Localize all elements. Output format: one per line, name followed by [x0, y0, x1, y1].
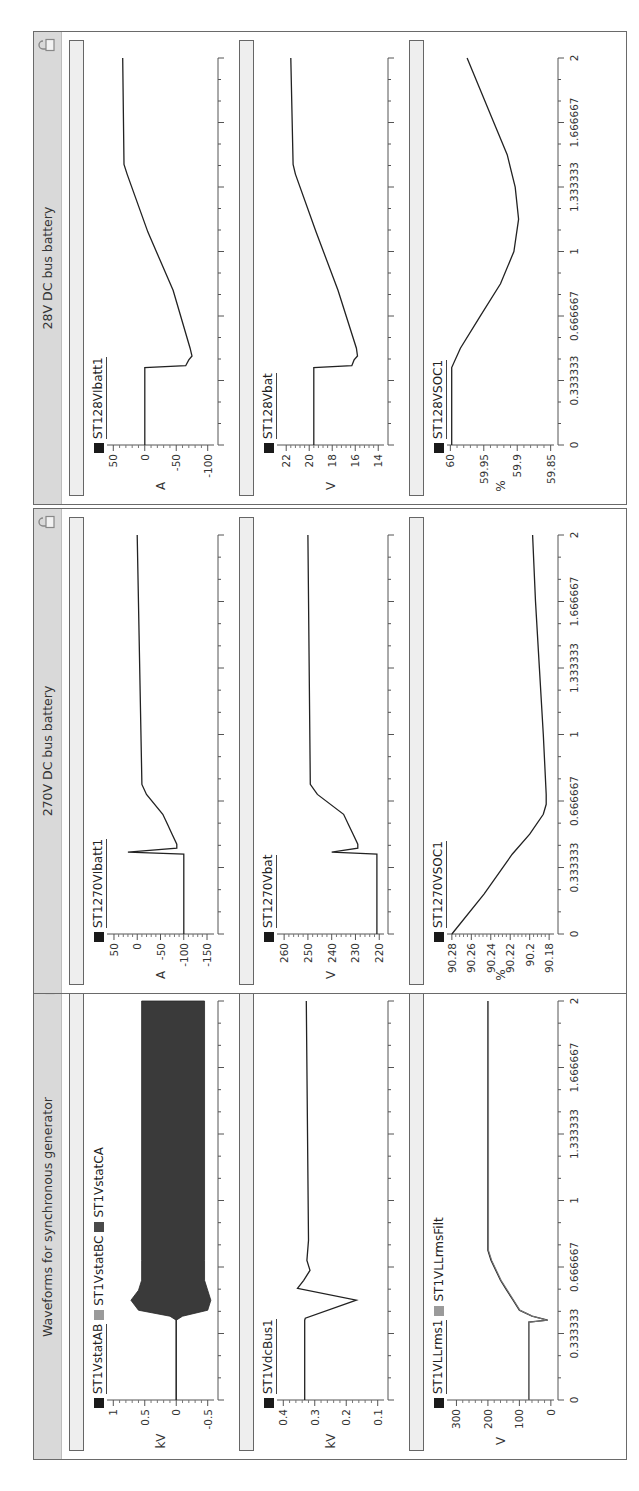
plot-area: 3002001000V00.3333330.66666711.3333331.6…: [409, 979, 581, 1455]
x-tick-label: 0.333333: [568, 842, 580, 892]
x-tick-label: 0.666667: [568, 776, 580, 826]
chart-st1270vsoc1: ST1270VSOC190.2890.2690.2490.2290.290.18…: [409, 513, 581, 989]
plot-area: 6059.9559.959.85%00.3333330.66666711.333…: [409, 36, 581, 500]
y-tick-label: 250: [302, 943, 314, 963]
y-tick-label: 16: [349, 454, 361, 468]
lock-icon[interactable]: [38, 38, 56, 52]
y-tick-label: 200: [482, 1409, 494, 1429]
y-tick-label: 0.2: [340, 1409, 352, 1426]
series-line: [488, 1001, 548, 1400]
y-axis-unit: V: [324, 481, 338, 490]
y-axis-unit: V: [494, 1436, 508, 1445]
series-line: [298, 1001, 357, 1400]
dashboard: Waveforms for synchronous generatorST1Vs…: [0, 0, 639, 1491]
y-tick-label: 59.85: [545, 454, 557, 484]
y-axis-unit: V: [324, 970, 338, 979]
y-tick-label: 100: [513, 1409, 525, 1429]
y-tick-label: 220: [373, 943, 385, 963]
y-tick-label: 0: [545, 1409, 557, 1416]
y-tick-label: 0: [131, 943, 143, 950]
y-tick-label: 240: [326, 943, 338, 963]
y-tick-label: 1: [107, 1409, 119, 1416]
x-tick-label: 1.666667: [568, 97, 580, 147]
y-tick-label: 14: [372, 454, 384, 468]
y-axis-unit: %: [494, 480, 508, 491]
y-axis-unit: %: [494, 969, 508, 980]
lock-icon[interactable]: [38, 515, 56, 529]
panel-title-text: 28V DC bus battery: [40, 207, 55, 330]
chart-st1vstatab: ST1VstatABST1VstatBCST1VstatCA10.50-0.5k…: [69, 979, 241, 1455]
y-axis-unit: A: [154, 481, 168, 490]
x-tick-label: 0: [568, 931, 580, 938]
x-tick-label: 0: [568, 1397, 580, 1404]
y-tick-label: -150: [201, 943, 213, 967]
series-line: [291, 58, 358, 445]
y-tick-label: 90.18: [543, 943, 555, 973]
plot-area: 500-50-100A: [69, 36, 241, 500]
panel-dc28: 28V DC bus batteryST128VIbatt1500-50-100…: [33, 31, 627, 505]
chart-st1vdcbus1: ST1VdcBus10.40.30.20.1kV: [239, 979, 411, 1455]
y-tick-label: 18: [326, 454, 338, 467]
series-line: [452, 58, 519, 445]
y-tick-label: 90.28: [446, 943, 458, 973]
y-tick-label: 90.26: [465, 943, 477, 973]
panel-title-text: Waveforms for synchronous generator: [40, 1097, 55, 1337]
y-tick-label: -100: [178, 943, 190, 967]
y-tick-label: 59.9: [511, 454, 523, 477]
series-line: [123, 58, 192, 445]
x-tick-label: 1: [568, 248, 580, 255]
x-tick-label: 0.666667: [568, 291, 580, 341]
chart-st1vllrms1: ST1VLLrms1ST1VLLrmsFilt3002001000V00.333…: [409, 979, 581, 1455]
y-tick-label: 0.5: [139, 1409, 151, 1426]
panel-title: 28V DC bus battery: [34, 32, 62, 504]
x-tick-label: 1.333333: [568, 162, 580, 212]
plot-area: 260250240230220V: [239, 513, 411, 989]
x-tick-label: 0.333333: [568, 1308, 580, 1358]
plot-area: 500-50-100-150A: [69, 513, 241, 989]
panel-dc270: 270V DC bus batteryST1270VIbatt1500-50-1…: [33, 508, 627, 994]
x-tick-label: 0.333333: [568, 355, 580, 405]
x-tick-label: 1.666667: [568, 1042, 580, 1092]
y-tick-label: 20: [303, 454, 315, 467]
chart-st1270vibatt1: ST1270VIbatt1500-50-100-150A: [69, 513, 241, 989]
y-tick-label: -50: [155, 943, 167, 960]
x-tick-label: 1.666667: [568, 576, 580, 626]
chart-st128vibatt1: ST128VIbatt1500-50-100A: [69, 36, 241, 500]
x-tick-label: 2: [568, 998, 580, 1005]
chart-st128vbat: ST128Vbat2220181614V: [239, 36, 411, 500]
chart-st1270vbat: ST1270Vbat260250240230220V: [239, 513, 411, 989]
panel-title: 270V DC bus battery: [34, 509, 62, 993]
y-tick-label: -50: [170, 454, 182, 471]
x-tick-label: 1: [568, 731, 580, 738]
y-tick-label: 90.2: [524, 943, 536, 966]
y-tick-label: 300: [450, 1409, 462, 1429]
y-tick-label: 230: [349, 943, 361, 963]
y-tick-label: 50: [108, 943, 120, 956]
series-line: [452, 535, 546, 934]
panel-title-text: 270V DC bus battery: [40, 686, 55, 817]
x-tick-label: 0.666667: [568, 1242, 580, 1292]
y-tick-label: -100: [202, 454, 214, 478]
x-tick-label: 2: [568, 55, 580, 62]
plot-area: 10.50-0.5kV: [69, 979, 241, 1455]
series-ST1VstatAB/BC/CA envelope: [131, 1001, 211, 1400]
series-line: [489, 1001, 548, 1400]
series-line: [128, 535, 184, 934]
x-tick-label: 2: [568, 532, 580, 539]
y-tick-label: 0.3: [309, 1409, 321, 1426]
y-tick-label: 0.4: [277, 1409, 289, 1426]
y-tick-label: 22: [280, 454, 292, 467]
y-tick-label: 0: [170, 1409, 182, 1416]
y-tick-label: 60: [444, 454, 456, 467]
y-tick-label: 260: [278, 943, 290, 963]
plot-area: 2220181614V: [239, 36, 411, 500]
plot-area: 0.40.30.20.1kV: [239, 979, 411, 1455]
x-tick-label: 1.333333: [568, 1109, 580, 1159]
chart-st128vsoc1: ST128VSOC16059.9559.959.85%00.3333330.66…: [409, 36, 581, 500]
plot-area: 90.2890.2690.2490.2290.290.18%00.3333330…: [409, 513, 581, 989]
y-tick-label: 0: [139, 454, 151, 461]
panel-title: Waveforms for synchronous generator: [34, 975, 62, 1459]
y-tick-label: 50: [107, 454, 119, 467]
series-line: [308, 535, 377, 934]
x-tick-label: 1.333333: [568, 643, 580, 693]
